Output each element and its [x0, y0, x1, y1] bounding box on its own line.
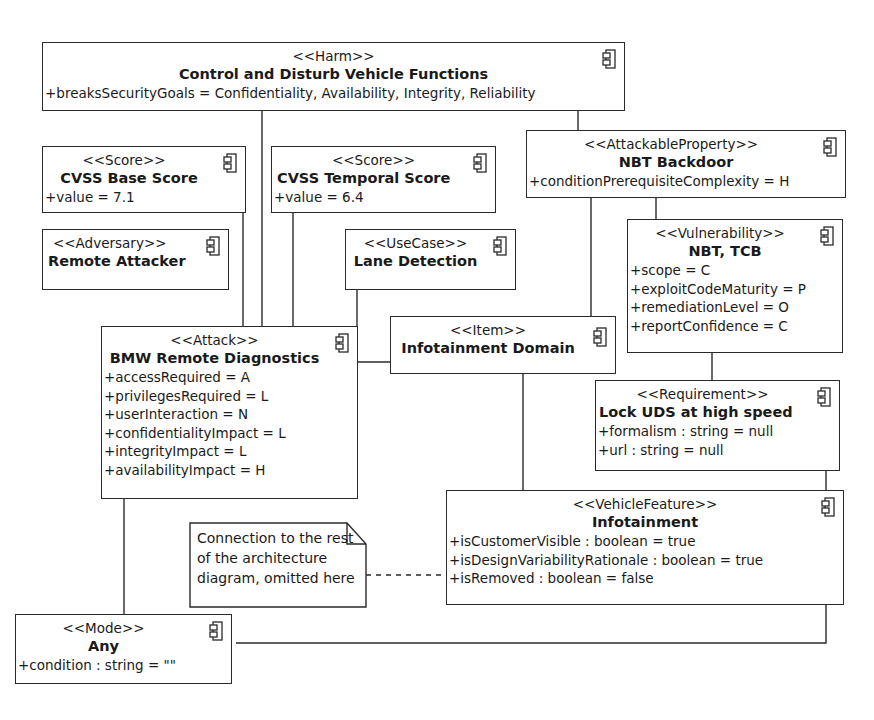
element-name: Control and Disturb Vehicle Functions — [43, 65, 624, 84]
stereotype-label: <<Score>> — [272, 151, 495, 169]
mode-block[interactable]: <<Mode>> Any +condition : string = "" — [15, 614, 232, 684]
component-icon — [223, 153, 237, 173]
element-name: Any — [16, 637, 231, 656]
component-icon — [593, 327, 607, 347]
requirement-block[interactable]: <<Requirement>> Lock UDS at high speed +… — [595, 380, 840, 471]
component-icon — [817, 387, 831, 407]
stereotype-label: <<Harm>> — [43, 47, 624, 65]
attribute: +breaksSecurityGoals = Confidentiality, … — [43, 84, 624, 103]
attribute: +isCustomerVisible : boolean = true — [447, 532, 843, 551]
attribute: +privilegesRequired = L — [102, 387, 357, 406]
stereotype-label: <<VehicleFeature>> — [447, 495, 843, 513]
element-name: NBT Backdoor — [527, 153, 845, 172]
attribute: +value = 6.4 — [272, 188, 495, 207]
vehicle-feature-block[interactable]: <<VehicleFeature>> Infotainment +isCusto… — [446, 490, 844, 605]
attribute: +userInteraction = N — [102, 405, 357, 424]
element-name: NBT, TCB — [628, 242, 842, 261]
stereotype-label: <<UseCase>> — [346, 234, 515, 252]
attribute: +conditionPrerequisiteComplexity = H — [527, 172, 845, 191]
harm-block[interactable]: <<Harm>> Control and Disturb Vehicle Fun… — [42, 42, 625, 111]
component-icon — [493, 236, 507, 256]
adversary-block[interactable]: <<Adversary>> Remote Attacker — [42, 229, 229, 290]
attribute: +accessRequired = A — [102, 368, 357, 387]
element-name: Infotainment — [447, 513, 843, 532]
note-text: Connection to the rest of the architectu… — [197, 528, 355, 588]
attribute: +formalism : string = null — [596, 422, 839, 441]
attribute: +confidentialityImpact = L — [102, 424, 357, 443]
stereotype-label: <<Item>> — [391, 321, 615, 339]
item-block[interactable]: <<Item>> Infotainment Domain — [390, 316, 616, 374]
stereotype-label: <<Mode>> — [16, 619, 231, 637]
component-icon — [209, 621, 223, 641]
element-name: Remote Attacker — [43, 252, 228, 271]
stereotype-label: <<Score>> — [43, 151, 245, 169]
temporal-score-block[interactable]: <<Score>> CVSS Temporal Score +value = 6… — [271, 146, 496, 213]
attribute: +url : string = null — [596, 441, 839, 460]
element-name: Lock UDS at high speed — [596, 403, 839, 422]
component-icon — [335, 333, 349, 353]
component-icon — [821, 497, 835, 517]
stereotype-label: <<Attack>> — [102, 331, 357, 349]
element-name: Lane Detection — [346, 252, 515, 271]
stereotype-label: <<AttackableProperty>> — [527, 135, 845, 153]
attribute: +isDesignVariabilityRationale : boolean … — [447, 551, 843, 570]
component-icon — [820, 226, 834, 246]
attackable-property-block[interactable]: <<AttackableProperty>> NBT Backdoor +con… — [526, 130, 846, 198]
usecase-block[interactable]: <<UseCase>> Lane Detection — [345, 229, 516, 290]
attack-block[interactable]: <<Attack>> BMW Remote Diagnostics +acces… — [101, 326, 358, 499]
attribute: +condition : string = "" — [16, 656, 231, 675]
component-icon — [602, 49, 616, 69]
element-name: Infotainment Domain — [391, 339, 615, 358]
base-score-block[interactable]: <<Score>> CVSS Base Score +value = 7.1 — [42, 146, 246, 213]
component-icon — [823, 137, 837, 157]
component-icon — [206, 236, 220, 256]
uml-diagram-canvas: <<Harm>> Control and Disturb Vehicle Fun… — [0, 0, 874, 720]
stereotype-label: <<Adversary>> — [43, 234, 228, 252]
attribute: +integrityImpact = L — [102, 442, 357, 461]
attribute: +remediationLevel = O — [628, 298, 842, 317]
attribute: +scope = C — [628, 261, 842, 280]
attribute: +availabilityImpact = H — [102, 461, 357, 480]
component-icon — [473, 153, 487, 173]
element-name: CVSS Temporal Score — [272, 169, 495, 188]
vulnerability-block[interactable]: <<Vulnerability>> NBT, TCB +scope = C +e… — [627, 219, 843, 353]
attribute: +value = 7.1 — [43, 188, 245, 207]
element-name: CVSS Base Score — [43, 169, 245, 188]
stereotype-label: <<Requirement>> — [596, 385, 839, 403]
attribute: +isRemoved : boolean = false — [447, 569, 843, 588]
comment-note[interactable]: Connection to the rest of the architectu… — [189, 522, 367, 608]
attribute: +exploitCodeMaturity = P — [628, 280, 842, 299]
element-name: BMW Remote Diagnostics — [102, 349, 357, 368]
attribute: +reportConfidence = C — [628, 317, 842, 336]
stereotype-label: <<Vulnerability>> — [628, 224, 842, 242]
